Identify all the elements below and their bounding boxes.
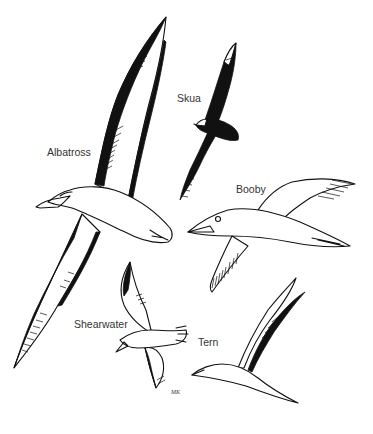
booby-drawing bbox=[188, 179, 355, 292]
bird-drawings bbox=[0, 0, 373, 434]
label-skua: Skua bbox=[177, 93, 201, 104]
label-tern: Tern bbox=[198, 337, 218, 348]
label-shearwater: Shearwater bbox=[74, 319, 128, 330]
seabird-illustration: Albatross Skua Booby Shearwater Tern MK bbox=[0, 0, 373, 434]
label-booby: Booby bbox=[236, 184, 266, 195]
label-albatross: Albatross bbox=[47, 147, 91, 158]
skua-drawing bbox=[180, 43, 239, 200]
albatross-drawing bbox=[14, 17, 172, 368]
artist-signature: MK bbox=[171, 389, 180, 395]
